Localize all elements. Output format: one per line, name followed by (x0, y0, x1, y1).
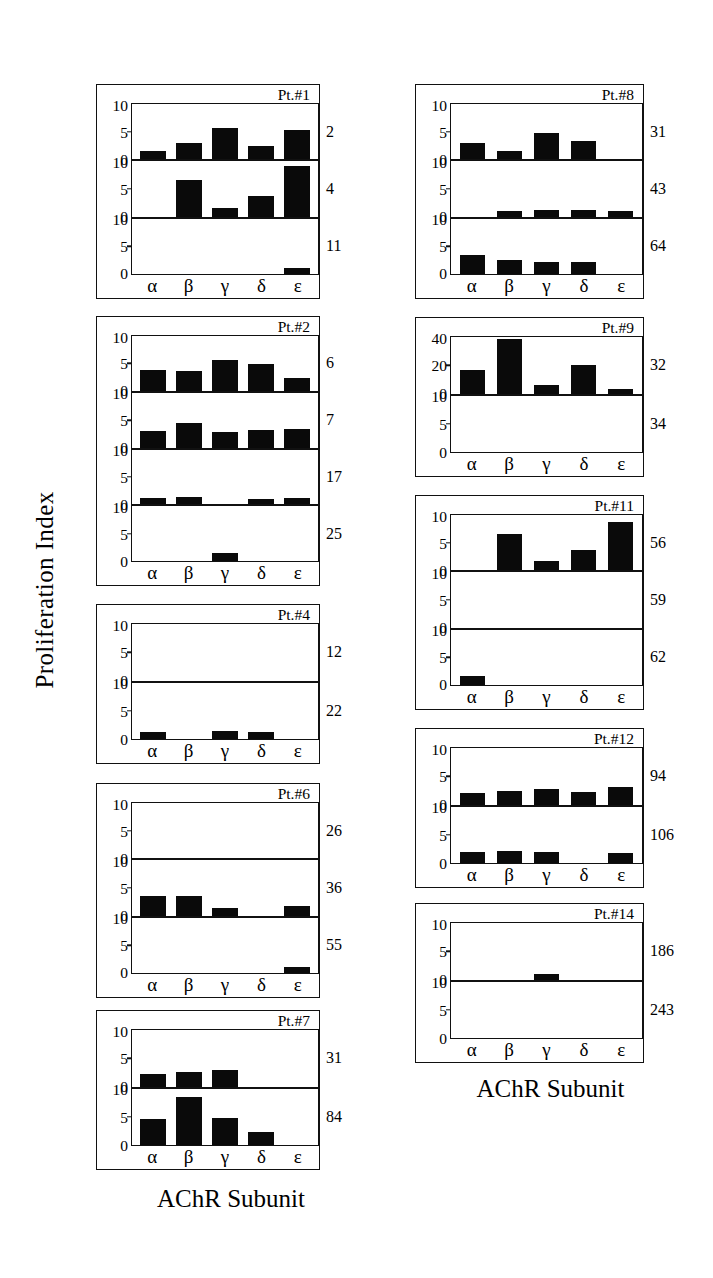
chart-row: 051026 (97, 802, 319, 859)
bar-slot-epsilon (279, 683, 315, 740)
bar-slot-beta (171, 683, 207, 740)
patient-panel: Pt.#8051031051043051064αβγδε (415, 84, 644, 299)
y-axis-ticks: 0510 (97, 392, 131, 449)
x-tick-label: β (170, 276, 206, 298)
bar-slot-delta (565, 572, 602, 627)
bar-group (132, 450, 318, 505)
chart-row-stack: 051012051022αβγδε (97, 623, 319, 760)
x-tick-label: δ (243, 563, 279, 585)
bar (571, 210, 597, 217)
bar-group (451, 807, 642, 864)
bar (212, 128, 237, 159)
chart-row: 051062 (416, 629, 643, 686)
y-tick-label: 10 (113, 796, 129, 811)
y-axis-ticks: 0510 (416, 747, 450, 806)
bar (248, 732, 273, 739)
chart-row: 05104 (97, 160, 319, 217)
bar-slot-delta (565, 982, 602, 1039)
bar-slot-beta (171, 506, 207, 561)
x-tick-label: γ (207, 741, 243, 763)
bar (212, 432, 237, 447)
bar-slot-gamma (207, 393, 243, 448)
bar-slot-gamma (207, 803, 243, 858)
y-tick-label: 10 (113, 499, 129, 514)
bar-slot-delta (565, 630, 602, 685)
bar-slot-epsilon (602, 630, 639, 685)
bar-slot-beta (491, 572, 528, 627)
row-label: 55 (326, 937, 342, 953)
bar (534, 210, 560, 216)
bar-slot-alpha (135, 104, 171, 159)
x-tick-label: α (134, 741, 170, 763)
bar-slot-epsilon (602, 982, 639, 1039)
bar-slot-delta (243, 450, 279, 505)
bar-slot-epsilon (279, 918, 315, 973)
bar-slot-alpha (135, 624, 171, 681)
chart-row-stack: 0510605107051017051025αβγδε (97, 335, 319, 582)
chart-row: 051031 (416, 103, 643, 160)
chart-row: 051031 (97, 1029, 319, 1088)
bar-slot-beta (171, 624, 207, 681)
x-axis-caption-right: AChR Subunit (413, 1075, 688, 1103)
patient-panel: Pt.#10510205104051011αβγδε (96, 84, 320, 299)
bar-slot-delta (243, 624, 279, 681)
row-label: 26 (326, 823, 342, 839)
bar-slot-gamma (528, 923, 565, 980)
bar (140, 1119, 165, 1145)
patient-panel: Pt.#1405101860510243αβγδε (415, 903, 644, 1063)
x-tick-label: α (453, 865, 490, 887)
row-label: 31 (650, 124, 666, 140)
x-axis: αβγδε (97, 563, 319, 585)
x-axis-spacer (416, 865, 450, 887)
row-label: 56 (650, 535, 666, 551)
row-label: 6 (326, 355, 334, 371)
y-axis-ticks: 0510 (416, 806, 450, 865)
bar-slot-alpha (135, 506, 171, 561)
bar-slot-alpha (135, 860, 171, 915)
bar (284, 166, 309, 217)
bar (176, 497, 201, 504)
y-tick-label: 10 (432, 508, 448, 523)
x-tick-label: β (170, 1147, 206, 1169)
bar-slot-beta (171, 803, 207, 858)
chart-row: 051043 (416, 160, 643, 217)
bar (212, 360, 237, 391)
x-tick-label: δ (565, 687, 602, 709)
bar-group (132, 860, 318, 915)
x-axis-spacer (416, 687, 450, 709)
bar-group (451, 337, 642, 394)
bar-slot-delta (243, 393, 279, 448)
bar (140, 498, 165, 504)
bar (497, 339, 523, 394)
plot-area (450, 922, 643, 981)
x-axis-spacer (97, 741, 131, 763)
x-tick-label: γ (528, 687, 565, 709)
y-axis-ticks: 0510 (97, 218, 131, 275)
bar (140, 732, 165, 739)
patient-panel-title: Pt.#7 (278, 1013, 310, 1028)
chart-row: 051011 (97, 218, 319, 275)
bar (176, 180, 201, 216)
bar (248, 1132, 273, 1145)
bar (140, 370, 165, 391)
bar-slot-gamma (528, 161, 565, 216)
x-axis: αβγδε (416, 454, 643, 476)
y-tick-label: 10 (113, 617, 129, 632)
bar-slot-alpha (135, 450, 171, 505)
y-axis-ticks: 0510 (97, 103, 131, 160)
y-axis-ticks: 0510 (416, 103, 450, 160)
bar (534, 852, 560, 863)
x-tick-label: α (453, 454, 490, 476)
row-label: 32 (650, 357, 666, 373)
bar-slot-epsilon (602, 748, 639, 805)
y-tick-label: 10 (432, 975, 448, 990)
x-tick-label: ε (603, 454, 640, 476)
bar-slot-epsilon (602, 396, 639, 453)
chart-row: 051055 (97, 917, 319, 974)
row-label: 43 (650, 181, 666, 197)
bar-slot-alpha (454, 161, 491, 216)
chart-row: 051094 (416, 747, 643, 806)
bar (248, 364, 273, 390)
x-tick-label: β (490, 276, 527, 298)
bar-slot-alpha (135, 1030, 171, 1087)
